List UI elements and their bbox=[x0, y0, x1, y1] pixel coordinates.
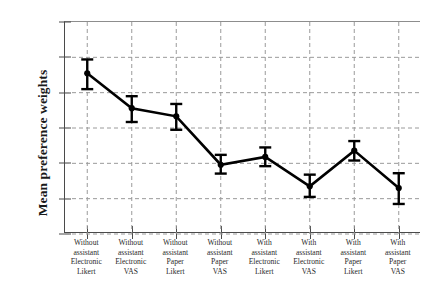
y-axis-title: Mean preference weights bbox=[35, 48, 51, 238]
data-point bbox=[262, 154, 268, 160]
data-point bbox=[218, 162, 224, 168]
data-point bbox=[84, 70, 90, 76]
series-line bbox=[87, 73, 399, 188]
chart-figure: Mean preference weights 0.160.150.140.13… bbox=[0, 0, 445, 300]
data-point bbox=[307, 183, 313, 189]
data-point bbox=[129, 105, 135, 111]
x-axis-labels: WithoutassistantElectronicLikertWithouta… bbox=[64, 238, 420, 294]
data-point bbox=[173, 113, 179, 119]
plot-area: 0.160.150.140.130.120.110.10 bbox=[64, 21, 420, 233]
data-point bbox=[351, 148, 357, 154]
x-tick-label: WithassistantPaperVAS bbox=[367, 238, 429, 276]
data-series bbox=[65, 22, 421, 234]
data-point bbox=[396, 185, 402, 191]
